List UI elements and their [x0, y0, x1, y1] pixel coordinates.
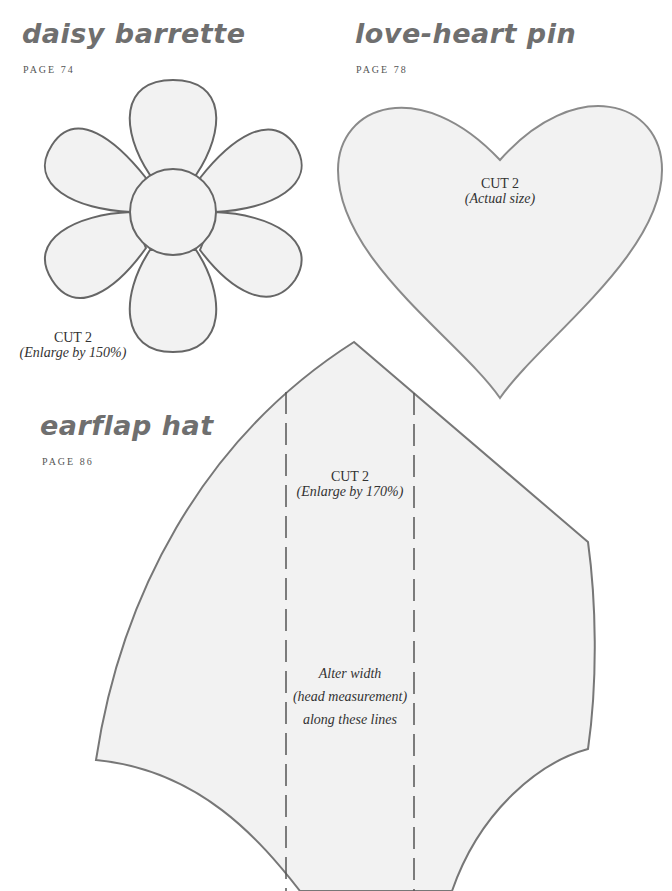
daisy-shape: [45, 80, 302, 352]
pattern-title-hat: earflap hat: [40, 410, 214, 441]
page-ref-hat: PAGE 86: [42, 456, 94, 467]
heart-shape: [338, 106, 662, 398]
cut-note: (Enlarge by 170%): [290, 484, 410, 499]
alter-line: (head measurement): [284, 685, 416, 708]
alter-line: along these lines: [290, 708, 410, 731]
alter-width-note: Alter width (head measurement) along the…: [290, 662, 410, 731]
pattern-shapes: [0, 0, 672, 891]
cut-label-daisy: CUT 2 (Enlarge by 150%): [18, 330, 128, 360]
cut-count: CUT 2: [430, 176, 570, 191]
cut-label-hat: CUT 2 (Enlarge by 170%): [290, 469, 410, 499]
page-ref-daisy: PAGE 74: [23, 64, 75, 75]
cut-label-heart: CUT 2 (Actual size): [430, 176, 570, 206]
page-ref-heart: PAGE 78: [356, 64, 408, 75]
cut-note: (Actual size): [430, 191, 570, 206]
cut-count: CUT 2: [290, 469, 410, 484]
pattern-title-heart: love-heart pin: [355, 18, 576, 49]
cut-count: CUT 2: [18, 330, 128, 345]
cut-note: (Enlarge by 150%): [18, 345, 128, 360]
alter-line: Alter width: [290, 662, 410, 685]
pattern-title-daisy: daisy barrette: [22, 18, 246, 49]
